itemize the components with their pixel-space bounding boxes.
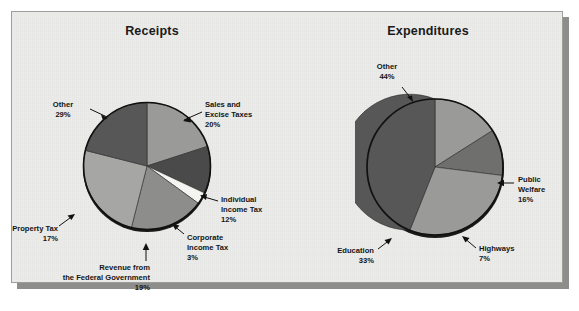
label-receipts-corporate-income-tax: Corporate Income Tax 3% xyxy=(187,233,259,263)
label-receipts-individual-income-tax: Individual Income Tax 12% xyxy=(221,195,293,225)
label-expenditures-education: Education 33% xyxy=(312,246,374,266)
label-expenditures-public-welfare: Public Welfare 16% xyxy=(518,175,566,205)
label-receipts-sales-excise-taxes: Sales and Excise Taxes 20% xyxy=(205,100,291,130)
label-expenditures-highways: Highways 7% xyxy=(479,244,535,264)
panel-expenditures: Expenditures xyxy=(292,12,564,282)
panel-receipts: Receipts xyxy=(12,12,292,282)
label-receipts-federal-revenue: Revenue from the Federal Government 19% xyxy=(40,263,150,293)
expenditures-title: Expenditures xyxy=(292,24,564,38)
receipts-title: Receipts xyxy=(12,24,292,38)
receipts-pie-chart xyxy=(72,92,222,242)
expenditures-pie-chart xyxy=(355,87,515,247)
label-expenditures-other: Other 44% xyxy=(364,62,410,82)
label-receipts-other: Other 29% xyxy=(32,100,94,120)
label-receipts-property-tax: Property Tax 17% xyxy=(0,224,58,244)
figure-frame: Receipts xyxy=(11,11,563,283)
